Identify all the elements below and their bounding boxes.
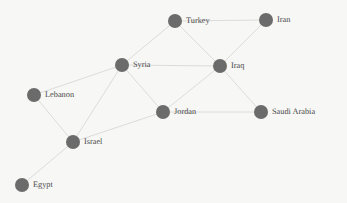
edges-layer: [22, 20, 266, 185]
graph-edge-iraq-saudi_arabia: [220, 66, 261, 112]
graph-edge-israel-egypt: [22, 142, 73, 185]
graph-node-iraq[interactable]: Iraq: [213, 59, 244, 73]
node-circle-jordan[interactable]: [156, 105, 170, 119]
node-circle-syria[interactable]: [115, 58, 129, 72]
node-label-israel: Israel: [84, 137, 103, 146]
node-circle-lebanon[interactable]: [27, 88, 41, 102]
node-label-syria: Syria: [133, 60, 151, 69]
graph-node-egypt[interactable]: Egypt: [15, 178, 54, 192]
node-circle-iraq[interactable]: [213, 59, 227, 73]
node-circle-egypt[interactable]: [15, 178, 29, 192]
graph-edge-lebanon-israel: [34, 95, 73, 142]
graph-edge-syria-jordan: [122, 65, 163, 112]
node-label-egypt: Egypt: [33, 180, 54, 189]
node-label-lebanon: Lebanon: [45, 90, 75, 99]
graph-edge-iraq-jordan: [163, 66, 220, 112]
graph-node-iran[interactable]: Iran: [259, 13, 291, 27]
graph-node-saudi_arabia[interactable]: Saudi Arabia: [254, 105, 315, 119]
nodes-layer: TurkeyIranSyriaIraqLebanonJordanSaudi Ar…: [15, 13, 315, 192]
node-label-jordan: Jordan: [174, 107, 197, 116]
node-label-iran: Iran: [277, 15, 291, 24]
graph-edge-syria-israel: [73, 65, 122, 142]
network-graph-canvas: TurkeyIranSyriaIraqLebanonJordanSaudi Ar…: [0, 0, 347, 203]
graph-edge-turkey-iraq: [175, 21, 220, 66]
graph-edge-iran-iraq: [220, 20, 266, 66]
node-circle-iran[interactable]: [259, 13, 273, 27]
graph-node-syria[interactable]: Syria: [115, 58, 151, 72]
graph-node-lebanon[interactable]: Lebanon: [27, 88, 75, 102]
node-circle-saudi_arabia[interactable]: [254, 105, 268, 119]
node-label-turkey: Turkey: [186, 16, 211, 25]
graph-node-jordan[interactable]: Jordan: [156, 105, 197, 119]
network-graph-svg: TurkeyIranSyriaIraqLebanonJordanSaudi Ar…: [0, 0, 347, 203]
graph-edge-turkey-syria: [122, 21, 175, 65]
node-label-saudi_arabia: Saudi Arabia: [272, 107, 315, 116]
graph-node-turkey[interactable]: Turkey: [168, 14, 211, 28]
node-circle-turkey[interactable]: [168, 14, 182, 28]
node-circle-israel[interactable]: [66, 135, 80, 149]
graph-node-israel[interactable]: Israel: [66, 135, 103, 149]
node-label-iraq: Iraq: [231, 61, 244, 70]
